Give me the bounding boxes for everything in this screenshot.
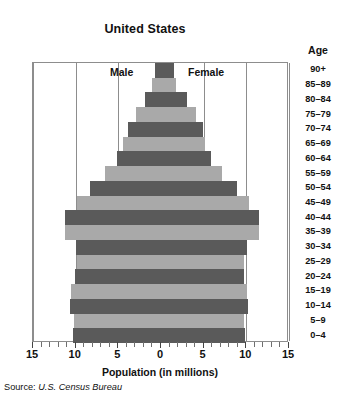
tick--1 <box>151 342 152 347</box>
tick--4 <box>126 342 127 347</box>
bar-female-40-44 <box>161 210 259 225</box>
chart-title: United States <box>0 22 290 36</box>
bar-female-35-39 <box>161 225 259 240</box>
tick-1 <box>169 342 170 347</box>
tick-6 <box>211 342 212 347</box>
bar-row <box>33 196 287 211</box>
bar-row <box>33 328 287 343</box>
bar-row <box>33 284 287 299</box>
source-note: Source: U.S. Census Bureau <box>4 382 122 392</box>
gridline-15 <box>289 63 290 341</box>
age-label-30-34: 30–34 <box>292 241 344 251</box>
bar-row <box>33 166 287 181</box>
tick--11 <box>66 342 67 347</box>
bar-female-10-14 <box>161 299 248 314</box>
tick--9 <box>83 342 84 347</box>
bar-male-70-74 <box>128 122 161 137</box>
plot-area <box>32 62 288 342</box>
bar-row <box>33 137 287 152</box>
bar-row <box>33 122 287 137</box>
tick--14 <box>41 342 42 347</box>
bar-male-20-24 <box>75 269 161 284</box>
bar-female-65-69 <box>161 137 205 152</box>
bar-row <box>33 63 287 78</box>
bar-male-60-64 <box>117 151 161 166</box>
age-label-0-4: 0–4 <box>292 330 344 340</box>
source-label: Source: <box>4 382 36 392</box>
tick-3 <box>186 342 187 347</box>
bar-male-5-9 <box>74 314 161 329</box>
bar-male-35-39 <box>65 225 161 240</box>
bar-female-25-29 <box>161 255 244 270</box>
age-axis-header: Age <box>292 44 344 56</box>
age-label-15-19: 15–19 <box>292 285 344 295</box>
bar-male-45-49 <box>77 196 161 211</box>
bar-male-65-69 <box>123 137 161 152</box>
x-tick-label-m15: 15 <box>17 348 47 360</box>
bar-male-10-14 <box>70 299 161 314</box>
bar-female-60-64 <box>161 151 211 166</box>
tick-8 <box>228 342 229 347</box>
age-label-50-54: 50–54 <box>292 182 344 192</box>
tick--8 <box>92 342 93 347</box>
tick-11 <box>254 342 255 347</box>
bar-row <box>33 107 287 122</box>
tick-13 <box>271 342 272 347</box>
x-tick-label-0: 0 <box>145 348 175 360</box>
bar-female-0-4 <box>161 328 245 343</box>
bar-male-15-19 <box>71 284 161 299</box>
bar-row <box>33 92 287 107</box>
x-tick-label-5: 5 <box>188 348 218 360</box>
x-tick-label-10: 10 <box>230 348 260 360</box>
tick-4 <box>194 342 195 347</box>
age-label-75-79: 75–79 <box>292 109 344 119</box>
bar-row <box>33 225 287 240</box>
age-label-60-64: 60–64 <box>292 153 344 163</box>
bar-female-15-19 <box>161 284 247 299</box>
bar-female-70-74 <box>161 122 203 137</box>
x-tick-label-m10: 10 <box>60 348 90 360</box>
age-label-55-59: 55–59 <box>292 168 344 178</box>
bar-female-55-59 <box>161 166 222 181</box>
bar-male-0-4 <box>73 328 161 343</box>
age-label-5-9: 5–9 <box>292 315 344 325</box>
bar-row <box>33 151 287 166</box>
age-label-65-69: 65–69 <box>292 138 344 148</box>
bar-male-75-79 <box>136 107 161 122</box>
age-label-10-14: 10–14 <box>292 300 344 310</box>
age-label-45-49: 45–49 <box>292 197 344 207</box>
population-pyramid-chart: United States Age 90+85–8980–8475–7970–7… <box>0 0 344 410</box>
x-tick-label-15: 15 <box>273 348 303 360</box>
bar-female-75-79 <box>161 107 196 122</box>
tick--2 <box>143 342 144 347</box>
bar-row <box>33 314 287 329</box>
bar-female-45-49 <box>161 196 249 211</box>
x-axis-title: Population (in millions) <box>32 366 288 378</box>
bar-row <box>33 269 287 284</box>
tick-14 <box>279 342 280 347</box>
bar-row <box>33 255 287 270</box>
tick--3 <box>134 342 135 347</box>
bar-female-85-89 <box>161 78 176 93</box>
bar-female-90+ <box>161 63 174 78</box>
age-label-80-84: 80–84 <box>292 94 344 104</box>
bar-female-20-24 <box>161 269 244 284</box>
bar-female-5-9 <box>161 314 244 329</box>
bars-container <box>33 63 287 341</box>
x-tick-label-m5: 5 <box>102 348 132 360</box>
age-label-90+: 90+ <box>292 64 344 74</box>
bar-male-80-84 <box>145 92 161 107</box>
bar-row <box>33 78 287 93</box>
tick-2 <box>177 342 178 347</box>
source-value: U.S. Census Bureau <box>38 382 122 392</box>
bar-female-30-34 <box>161 240 247 255</box>
x-axis-tick-labels: 15105051015 <box>0 348 344 364</box>
bar-male-50-54 <box>90 181 161 196</box>
series-label-male: Male <box>110 66 133 78</box>
age-label-35-39: 35–39 <box>292 226 344 236</box>
bar-male-40-44 <box>65 210 161 225</box>
age-label-25-29: 25–29 <box>292 256 344 266</box>
bar-row <box>33 299 287 314</box>
bar-male-25-29 <box>77 255 161 270</box>
tick-7 <box>220 342 221 347</box>
